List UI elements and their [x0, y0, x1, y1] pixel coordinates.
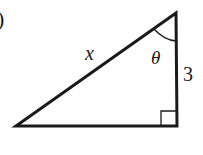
angle-theta-label: θ: [151, 47, 160, 69]
triangle-shape: [16, 13, 177, 126]
right-triangle: [0, 0, 203, 155]
side-length-label: 3: [183, 63, 193, 86]
hypotenuse-label: x: [85, 42, 94, 65]
angle-arc: [154, 29, 176, 41]
right-angle-marker: [161, 111, 176, 126]
